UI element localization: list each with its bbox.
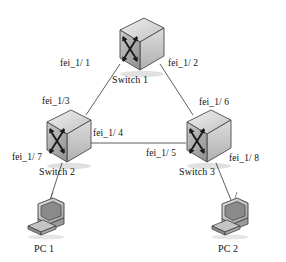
link-switch1-switch2 [86, 64, 120, 115]
port-label-fei-1-6: fei_1/ 6 [199, 97, 229, 107]
link-lines-layer [0, 0, 286, 262]
port-label-fei-1-4: fei_1/ 4 [93, 128, 123, 138]
port-label-fei-1-5: fei_1/ 5 [146, 148, 176, 158]
port-label-fei-1-2: fei_1/ 2 [168, 58, 198, 68]
network-topology-diagram: fei_1/ 1 fei_1/ 2 fei_1/3 fei_1/ 4 fei_1… [0, 0, 286, 262]
port-label-fei-1-8: fei_1/ 8 [229, 153, 259, 163]
switch3-icon[interactable] [187, 110, 231, 169]
switch1-icon[interactable] [120, 18, 164, 77]
node-label-pc2: PC 2 [218, 243, 238, 254]
switch2-icon[interactable] [47, 110, 91, 169]
pc2-icon[interactable] [212, 192, 248, 240]
link-switch1-switch3 [160, 64, 193, 115]
port-label-fei-1-7: fei_1/ 7 [12, 152, 42, 162]
node-label-pc1: PC 1 [34, 243, 54, 254]
node-label-switch2: Switch 2 [39, 166, 75, 177]
node-label-switch1: Switch 1 [112, 74, 148, 85]
pc1-icon[interactable] [28, 192, 64, 240]
port-label-fei-1-3: fei_1/3 [42, 96, 70, 106]
port-label-fei-1-1: fei_1/ 1 [60, 58, 90, 68]
node-label-switch3: Switch 3 [179, 166, 215, 177]
